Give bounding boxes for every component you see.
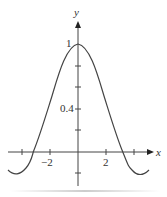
y-axis-label: y — [73, 6, 79, 18]
shadow — [10, 190, 160, 192]
graph: y x 1 0.4 −2 2 — [0, 0, 167, 197]
y-axis-arrow-icon — [75, 21, 81, 28]
x-tick-label-neg2: −2 — [41, 156, 53, 168]
x-tick-label-2: 2 — [103, 156, 109, 168]
y-tick-label-1: 1 — [66, 37, 72, 49]
x-axis-label: x — [155, 146, 161, 158]
x-axis-arrow-icon — [147, 149, 154, 155]
y-tick-label-0.4: 0.4 — [60, 102, 74, 114]
